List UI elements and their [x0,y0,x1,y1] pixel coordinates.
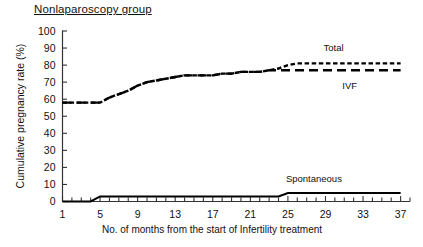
axes [63,31,411,202]
series-line-ivf [63,70,401,102]
series-line-total [63,63,401,102]
plot-area [0,0,423,247]
data-lines [63,63,401,201]
figure-container: Nonlaparoscopy group Cumulative pregnanc… [0,0,423,247]
